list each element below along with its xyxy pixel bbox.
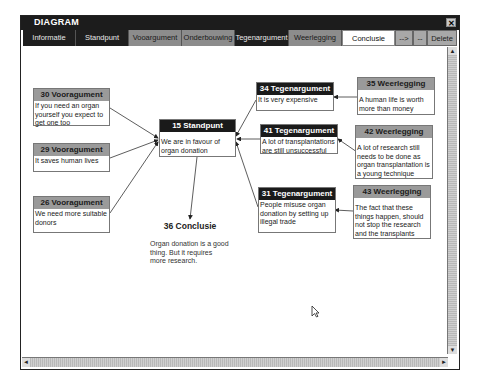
node-text: If you need an organ yourself you expect…	[34, 101, 109, 129]
node-30-vooragument[interactable]: 30 Vooragument If you need an organ your…	[33, 88, 110, 126]
node-41-tegenargument[interactable]: 41 Tegenargument A lot of transplantatio…	[260, 124, 338, 154]
tab-weerlegging[interactable]: Weerlegging	[289, 30, 342, 46]
node-text: People misuse organ donation by setting …	[259, 200, 335, 228]
node-title: 26 Vooragument	[34, 197, 109, 209]
node-title: 15 Standpunt	[160, 120, 235, 132]
node-text: We need more suitable donors	[34, 209, 109, 228]
node-title: 41 Tegenargument	[261, 125, 337, 137]
scrollbar-corner	[448, 358, 457, 367]
node-35-weerlegging[interactable]: 35 Weerlegging A human life is worth mor…	[357, 77, 435, 115]
node-26-vooragument[interactable]: 26 Vooragument We need more suitable don…	[33, 196, 110, 233]
node-text: It saves human lives	[34, 156, 109, 167]
node-text: A human life is worth more than money	[358, 95, 434, 114]
node-text: We are in favour of organ donation	[160, 137, 235, 156]
node-title: 30 Vooragument	[34, 89, 109, 101]
mouse-pointer-icon	[311, 305, 320, 318]
window-title: DIAGRAM	[34, 17, 79, 27]
node-29-vooragument[interactable]: 29 Vooragument It saves human lives	[33, 143, 110, 172]
arrow-button[interactable]: -->	[395, 30, 413, 46]
node-title: 34 Tegenargument	[257, 83, 333, 95]
node-text: It is very expensive	[257, 95, 333, 106]
node-title: 35 Weerlegging	[358, 78, 434, 90]
scroll-down-icon[interactable]: ▼	[448, 346, 457, 354]
tab-standpunt[interactable]: Standpunt	[76, 30, 129, 46]
node-34-tegenargument[interactable]: 34 Tegenargument It is very expensive	[256, 82, 334, 111]
node-title: 31 Tegenargument	[259, 188, 335, 200]
tab-onderbouwing[interactable]: Onderbouwing	[182, 30, 235, 46]
node-31-tegenargument[interactable]: 31 Tegenargument People misuse organ don…	[258, 187, 336, 233]
node-36-conclusie[interactable]: 36 Conclusie Organ donation is a good th…	[150, 221, 230, 266]
node-title: 43 Weerlegging	[354, 186, 430, 198]
node-text: Organ donation is a good thing. But it r…	[150, 240, 230, 266]
tab-conclusie[interactable]: Conclusie	[342, 30, 395, 46]
close-icon[interactable]: ✕	[446, 18, 456, 27]
tab-bar: Informatie Standpunt Vooargument Onderbo…	[23, 30, 457, 46]
node-text: A lot of transplantations are still unsu…	[261, 137, 337, 156]
scroll-up-icon[interactable]: ▲	[448, 47, 457, 55]
horizontal-scrollbar[interactable]: ◄ ►	[22, 357, 448, 367]
node-text: A lot of research still needs to be done…	[356, 143, 432, 179]
node-43-weerlegging[interactable]: 43 Weerlegging The fact that these thing…	[353, 185, 431, 239]
node-42-weerlegging[interactable]: 42 Weerlegging A lot of research still n…	[355, 125, 433, 179]
node-text: The fact that these things happen, shoul…	[354, 203, 430, 239]
vertical-scrollbar[interactable]: ▲ ▼	[447, 47, 457, 354]
scroll-left-icon[interactable]: ◄	[22, 358, 30, 367]
title-bar: DIAGRAM ✕	[21, 16, 459, 30]
line-button[interactable]: --	[413, 30, 427, 46]
node-15-standpunt[interactable]: 15 Standpunt We are in favour of organ d…	[159, 119, 236, 157]
scroll-right-icon[interactable]: ►	[440, 358, 448, 367]
tab-tegenargument[interactable]: Tegenargument	[235, 30, 289, 46]
node-title: 42 Weerlegging	[356, 126, 432, 138]
node-title: 36 Conclusie	[150, 221, 230, 231]
delete-button[interactable]: Delete	[427, 30, 457, 46]
tab-vooargument[interactable]: Vooargument	[129, 30, 182, 46]
tab-informatie[interactable]: Informatie	[23, 30, 76, 46]
node-title: 29 Vooragument	[34, 144, 109, 156]
